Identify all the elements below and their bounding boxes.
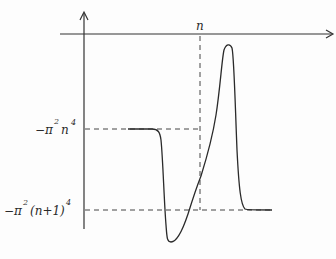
diagram-svg: n −π 2 n 4 −π 2 (n+1) 4	[0, 0, 336, 259]
upper-label-sup1: 2	[53, 117, 59, 126]
upper-label-prefix: −π	[35, 123, 54, 137]
lower-label-prefix: −π	[4, 204, 23, 218]
y-axis	[80, 12, 88, 229]
lower-label-sup2: 4	[65, 198, 71, 207]
reference-lines	[85, 36, 272, 210]
lower-label-n-plus-1: (n+1)	[30, 204, 65, 218]
diagram-canvas: n −π 2 n 4 −π 2 (n+1) 4	[0, 0, 336, 259]
upper-level-label: −π 2 n 4	[35, 117, 76, 137]
upper-label-sup2: 4	[70, 118, 76, 127]
upper-label-n: n	[61, 123, 69, 137]
lower-label-sup1: 2	[22, 198, 28, 207]
lower-level-label: −π 2 (n+1) 4	[4, 198, 71, 218]
x-tick-label-n: n	[196, 19, 204, 33]
